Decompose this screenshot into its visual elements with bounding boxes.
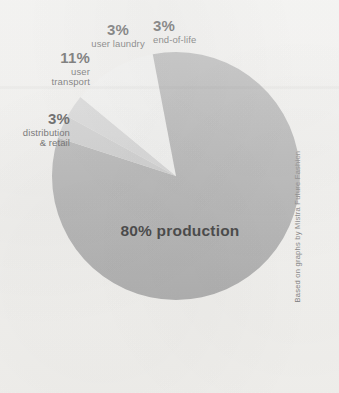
slice-label-user-laundry: 3% user laundry (86, 22, 150, 49)
slice-percent-user-laundry: 3% (86, 22, 150, 39)
pie-slice-group (52, 52, 300, 300)
slice-percent-end-of-life: 3% (153, 18, 225, 35)
slice-name-end-of-life: end-of-life (153, 35, 225, 46)
slice-name-user-laundry: user laundry (86, 39, 150, 50)
slice-percent-distribution-retail: 3% (0, 111, 70, 128)
slice-label-user-transport: 11% user transport (26, 50, 90, 88)
slice-name-distribution-retail-line2: & retail (0, 138, 70, 149)
slice-label-end-of-life: 3% end-of-life (153, 18, 225, 45)
slice-name-user-transport-line2: transport (26, 77, 90, 88)
slice-label-distribution-retail: 3% distribution & retail (0, 111, 70, 149)
slice-label-production: 80% production (104, 222, 256, 240)
slice-text-production: 80% production (120, 222, 239, 239)
chart-credit: Based on graphs by Mistra Future Fashion (293, 143, 302, 303)
slice-percent-user-transport: 11% (26, 50, 90, 67)
